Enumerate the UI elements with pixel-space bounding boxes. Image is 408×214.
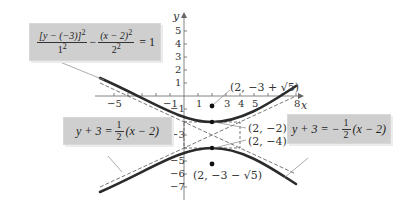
equation-minus: − bbox=[89, 35, 96, 50]
vertex-top-point bbox=[210, 120, 214, 124]
vertex-bottom-label: (2, −4) bbox=[248, 136, 287, 147]
term2-exponent: 2 bbox=[128, 28, 132, 37]
term2-numerator: (x − 2) bbox=[100, 30, 128, 41]
x-tick-label: 1 bbox=[196, 99, 202, 109]
asymptote-negative-box: y + 3 = − 1 2 (x − 2) bbox=[287, 114, 391, 144]
asym-neg-lhs: y + 3 = − bbox=[292, 122, 340, 137]
asymptote-positive-box: y + 3 = 1 2 (x − 2) bbox=[63, 117, 172, 145]
x-tick-label: 3 bbox=[224, 99, 230, 109]
asym-pos-num: 1 bbox=[115, 120, 124, 132]
equation-term-1: [y − (−3)]2 12 bbox=[37, 29, 87, 56]
equation-rhs: = 1 bbox=[139, 35, 155, 50]
x-axis-label: x bbox=[301, 100, 307, 111]
x-tick-label: 5 bbox=[252, 99, 258, 109]
term2-den-exponent: 2 bbox=[117, 42, 121, 51]
y-tick-label: −6 bbox=[170, 169, 185, 179]
y-axis-arrow-icon bbox=[181, 12, 187, 18]
y-tick-label: 4 bbox=[175, 39, 181, 49]
vertex-top-label: (2, −2) bbox=[248, 123, 287, 134]
asym-neg-num: 1 bbox=[342, 118, 351, 130]
term1-exponent: 2 bbox=[81, 28, 85, 37]
equation-term-2: (x − 2)2 22 bbox=[98, 29, 134, 56]
y-tick-label: 5 bbox=[175, 26, 181, 36]
asym-neg-fraction: 1 2 bbox=[342, 118, 351, 140]
x-tick-label: 8 bbox=[294, 99, 300, 109]
y-tick-label: 2 bbox=[175, 65, 181, 75]
asym-pos-fraction: 1 2 bbox=[115, 120, 124, 142]
focus-bottom-label: (2, −3 − √5) bbox=[193, 170, 262, 181]
y-tick-label: 1 bbox=[175, 78, 181, 88]
vertex-bottom-point bbox=[210, 146, 214, 150]
y-axis-label: y bbox=[173, 11, 179, 22]
hyperbola-equation-box: [y − (−3)]2 12 − (x − 2)2 22 = 1 bbox=[29, 23, 161, 61]
y-tick-label: −3 bbox=[170, 130, 185, 140]
focus-bottom-point bbox=[210, 162, 215, 167]
x-tick-label: −5 bbox=[107, 99, 122, 109]
focus-top-label: (2, −3 + √5) bbox=[230, 82, 299, 93]
asym-neg-rhs: (x − 2) bbox=[353, 122, 386, 137]
term1-den-exponent: 2 bbox=[63, 42, 67, 51]
term1-numerator: [y − (−3)] bbox=[39, 30, 81, 41]
focus-top-point bbox=[210, 104, 215, 109]
asym-pos-lhs: y + 3 = bbox=[76, 124, 113, 139]
asym-neg-den: 2 bbox=[344, 130, 349, 141]
y-tick-label: −5 bbox=[170, 156, 185, 166]
x-tick-label: 4 bbox=[238, 99, 244, 109]
asym-pos-rhs: (x − 2) bbox=[126, 124, 159, 139]
y-tick-label: −1 bbox=[170, 104, 185, 114]
y-tick-label: −7 bbox=[170, 182, 185, 192]
asym-pos-den: 2 bbox=[117, 132, 122, 143]
y-tick-label: 3 bbox=[175, 52, 181, 62]
